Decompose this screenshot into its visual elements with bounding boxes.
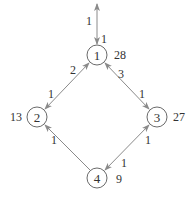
node-label: 3 <box>154 110 161 125</box>
edge-external-1: 1 1 <box>86 4 107 46</box>
node-value: 9 <box>116 172 122 186</box>
node-1: 1 28 <box>87 45 126 65</box>
edge-label-external-near: 1 <box>101 32 107 46</box>
arrow-icon <box>45 125 90 170</box>
node-label: 2 <box>34 110 41 125</box>
edge-label-1-3-at-3: 1 <box>139 87 145 101</box>
double-arrow-icon <box>105 125 149 170</box>
edge-label-1-2-at-1: 2 <box>70 63 76 77</box>
edge-label-3-4-at-4: 1 <box>121 156 127 170</box>
edge-label-external-far: 1 <box>86 14 92 28</box>
edge-label-4-2-at-2: 1 <box>51 133 57 147</box>
node-label: 1 <box>94 48 101 63</box>
node-3: 3 27 <box>147 107 185 127</box>
double-arrow-icon <box>45 63 89 109</box>
edge-3-4: 1 1 <box>105 125 151 170</box>
node-4: 4 9 <box>87 168 122 188</box>
graph-canvas: 1 1 2 1 3 1 1 1 1 1 28 2 13 3 27 <box>0 0 194 198</box>
edge-label-1-3-at-1: 3 <box>118 67 124 81</box>
edge-1-2: 2 1 <box>45 63 89 109</box>
edge-label-3-4-at-3: 1 <box>145 133 151 147</box>
edge-4-2: 1 <box>45 125 90 170</box>
edge-label-1-2-at-2: 1 <box>48 87 54 101</box>
node-value: 28 <box>114 48 126 62</box>
node-label: 4 <box>94 171 101 186</box>
node-value: 27 <box>173 110 185 124</box>
edge-1-3: 3 1 <box>105 63 149 109</box>
node-value: 13 <box>10 110 22 124</box>
double-arrow-icon <box>105 63 149 109</box>
node-2: 2 13 <box>10 107 47 127</box>
